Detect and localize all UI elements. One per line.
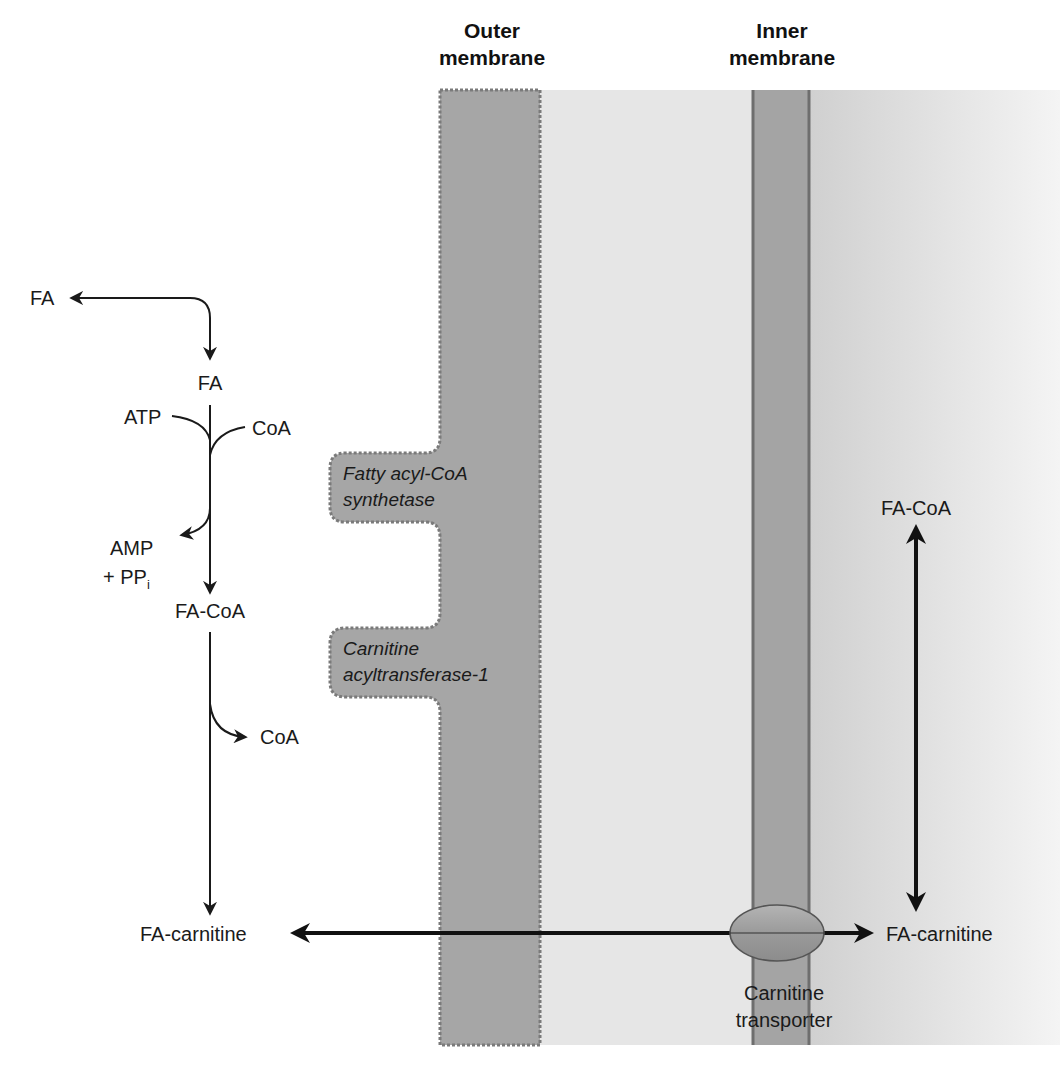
atp-label: ATP: [124, 406, 161, 428]
amp-label: AMP: [110, 537, 153, 559]
coa-in-label: CoA: [252, 417, 292, 439]
fa-carnitine-matrix-label: FA-carnitine: [886, 923, 993, 945]
fa-coa-matrix-label: FA-CoA: [881, 497, 952, 519]
coa-out-label: CoA: [260, 726, 300, 748]
coa-input-curve: [210, 427, 245, 455]
transporter-label-line2: transporter: [736, 1009, 833, 1031]
cat1-label-line2: acyltransferase-1: [343, 664, 489, 685]
fa-label: FA: [198, 372, 223, 394]
acyl-coa-synthetase-label-line1: Fatty acyl-CoA: [343, 463, 468, 484]
atp-input-curve: [172, 416, 210, 440]
inner-membrane-label-line2: membrane: [729, 46, 835, 69]
amp-ppi-output-curve: [182, 508, 210, 535]
outer-membrane-label-line1: Outer: [464, 19, 520, 42]
inner-membrane: [752, 90, 810, 1045]
mitochondrial-matrix: [810, 90, 1060, 1045]
fa-uptake-arrow: [72, 298, 210, 358]
outer-membrane-label-line2: membrane: [439, 46, 545, 69]
transporter-label-line1: Carnitine: [744, 982, 824, 1004]
carnitine-shuttle-diagram: Outer membrane Inner membrane FA FA ATP …: [0, 0, 1060, 1075]
fa-coa-cytosol-label: FA-CoA: [175, 600, 246, 622]
inner-membrane-label-line1: Inner: [756, 19, 807, 42]
fa-carnitine-cytosol-label: FA-carnitine: [140, 923, 247, 945]
fa-top-label: FA: [30, 287, 55, 309]
carnitine-transporter: [730, 905, 824, 961]
ppi-label: + PPi: [103, 566, 150, 592]
cat1-label-line1: Carnitine: [343, 638, 419, 659]
acyl-coa-synthetase-label-line2: synthetase: [343, 489, 435, 510]
outer-membrane: [330, 90, 540, 1045]
intermembrane-space: [540, 90, 752, 1045]
coa-output-curve: [210, 704, 245, 737]
